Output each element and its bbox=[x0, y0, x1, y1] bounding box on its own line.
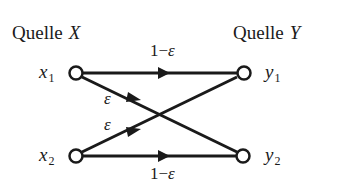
node-y1-circle-icon bbox=[238, 67, 251, 80]
node-y2-sub: 2 bbox=[274, 154, 280, 168]
node-x1-circle-icon bbox=[70, 67, 83, 80]
source-y-label: Quelle bbox=[233, 22, 284, 43]
edge-label-x2-y2: 1−ε bbox=[150, 165, 175, 182]
node-x1-label: x1 bbox=[39, 62, 54, 81]
node-y2-circle-icon bbox=[237, 150, 250, 163]
source-y-title: QuelleY bbox=[233, 23, 300, 42]
epsilon-symbol: ε bbox=[104, 115, 111, 134]
arrowhead-icon bbox=[126, 92, 141, 102]
node-x2-label: x2 bbox=[39, 145, 54, 164]
epsilon-symbol: ε bbox=[168, 164, 175, 183]
edge-label-x1-y2: ε bbox=[104, 90, 111, 107]
arrowhead-icon bbox=[158, 67, 170, 79]
edge-x2-y2 bbox=[83, 150, 236, 162]
node-y1-base: y bbox=[265, 61, 273, 82]
source-y-var: Y bbox=[290, 22, 301, 43]
node-y2-base: y bbox=[265, 144, 273, 165]
epsilon-symbol: ε bbox=[168, 41, 175, 60]
source-x-var: X bbox=[69, 22, 81, 43]
arrowhead-icon bbox=[158, 150, 170, 162]
arrowhead-icon bbox=[126, 127, 141, 137]
node-x1-sub: 1 bbox=[48, 71, 54, 85]
bsc-diagram: QuelleX QuelleY x1 x2 y1 y2 1−ε 1−ε ε ε bbox=[0, 0, 339, 189]
epsilon-symbol: ε bbox=[104, 89, 111, 108]
node-x1-base: x bbox=[39, 61, 47, 82]
source-x-label: Quelle bbox=[12, 22, 63, 43]
edge-label-prefix: 1− bbox=[150, 41, 168, 60]
edge-label-x1-y1: 1−ε bbox=[150, 42, 175, 59]
node-y1-label: y1 bbox=[265, 62, 280, 81]
node-x2-sub: 2 bbox=[48, 154, 54, 168]
edge-label-x2-y1: ε bbox=[104, 116, 111, 133]
node-x2-base: x bbox=[39, 144, 47, 165]
edge-x1-y1 bbox=[83, 67, 237, 79]
source-x-title: QuelleX bbox=[12, 23, 80, 42]
node-y1-sub: 1 bbox=[274, 71, 280, 85]
node-x2-circle-icon bbox=[70, 150, 83, 163]
node-y2-label: y2 bbox=[265, 145, 280, 164]
edge-label-prefix: 1− bbox=[150, 164, 168, 183]
